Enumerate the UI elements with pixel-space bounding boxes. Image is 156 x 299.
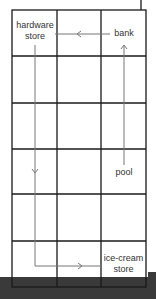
place-hardware-store: hardware store bbox=[14, 20, 56, 42]
place-bank: bank bbox=[110, 28, 138, 39]
place-label-line2: store bbox=[25, 31, 45, 42]
place-ice-cream-store: ice-cream store bbox=[102, 253, 145, 275]
place-label-line1: hardware bbox=[16, 20, 54, 31]
route-hardware-to-icecream bbox=[35, 45, 102, 266]
place-pool: pool bbox=[112, 167, 136, 178]
place-label: pool bbox=[115, 167, 132, 177]
place-label-line1: ice-cream bbox=[104, 253, 144, 264]
place-label-line2: store bbox=[113, 264, 133, 275]
place-label: bank bbox=[114, 28, 134, 38]
